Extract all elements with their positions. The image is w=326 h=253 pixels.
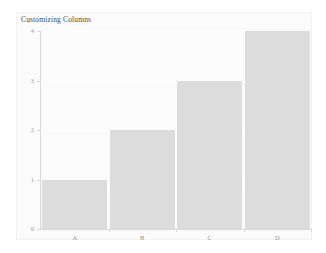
- x-tick-mark: [311, 229, 312, 232]
- x-tick-label: D: [275, 233, 280, 243]
- x-tick-mark: [244, 229, 245, 232]
- x-tick-mark: [109, 229, 110, 232]
- y-tick-label: 2: [0, 125, 38, 135]
- y-tick-label: 4: [0, 26, 38, 36]
- x-tick-label: A: [72, 233, 77, 243]
- chart-title: Customizing Columns: [21, 15, 91, 24]
- y-tick-mark: [37, 81, 40, 82]
- y-tick-label: 0: [0, 224, 38, 234]
- bar-b[interactable]: [110, 130, 175, 229]
- x-tick-mark: [176, 229, 177, 232]
- y-tick-mark: [37, 130, 40, 131]
- y-tick-mark: [37, 229, 40, 230]
- y-tick-label: 3: [0, 76, 38, 86]
- x-tick-label: C: [208, 233, 212, 243]
- bar-a[interactable]: [42, 180, 107, 230]
- y-tick-label: 1: [0, 175, 38, 185]
- x-tick-label: B: [140, 233, 144, 243]
- y-tick-mark: [37, 31, 40, 32]
- chart-figure: Customizing Columns 01234 ABCD: [0, 0, 326, 253]
- bar-c[interactable]: [177, 81, 242, 230]
- y-tick-mark: [37, 180, 40, 181]
- y-axis-line: [40, 31, 41, 230]
- bar-d[interactable]: [245, 31, 310, 229]
- bars-group: [41, 31, 311, 229]
